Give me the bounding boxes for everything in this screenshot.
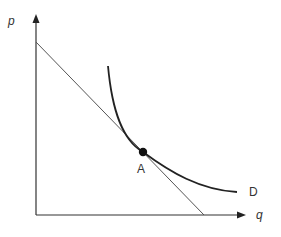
diagram-canvas: p q D A <box>0 0 281 237</box>
tangent-line <box>36 42 204 215</box>
point-a-marker <box>139 148 147 156</box>
y-axis-arrow-icon <box>33 14 40 23</box>
x-axis-label: q <box>256 208 263 222</box>
demand-curve <box>108 66 237 192</box>
y-axis-label: p <box>8 14 15 28</box>
x-axis-arrow-icon <box>237 212 246 219</box>
point-label-a: A <box>137 162 145 176</box>
curve-label-d: D <box>249 185 258 199</box>
diagram-svg <box>0 0 281 237</box>
